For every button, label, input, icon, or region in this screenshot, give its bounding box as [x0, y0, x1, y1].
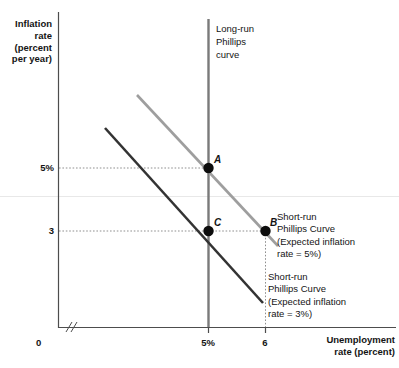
y-axis-title: Inflation rate (percent per year) [0, 18, 52, 65]
short-run-phillips-curve-expected-3-label: Short-run Phillips Curve (Expected infla… [268, 271, 346, 321]
ytick-label-5-percent: 5% [26, 162, 54, 174]
x-axis-title: Unemployment rate (percent) [283, 334, 395, 358]
phillips-curve-figure: Inflation rate (percent per year) Unempl… [0, 0, 399, 368]
data-point-c-label: C [214, 217, 221, 229]
long-run-phillips-curve-label: Long-run Phillips curve [216, 22, 254, 61]
data-point-b-label: B [270, 217, 277, 229]
origin-label: 0 [36, 337, 41, 349]
short-run-phillips-curve-expected-5-label: Short-run Phillips Curve (Expected infla… [277, 211, 355, 261]
data-point-c [203, 226, 213, 236]
xtick-label-6: 6 [252, 337, 278, 349]
xtick-label-5-percent: 5% [193, 337, 223, 349]
ytick-label-3: 3 [26, 225, 54, 237]
short-run-phillips-curve-expected-3 [105, 128, 263, 303]
data-point-a-label: A [214, 154, 221, 166]
data-point-a [203, 163, 213, 173]
